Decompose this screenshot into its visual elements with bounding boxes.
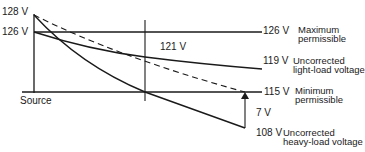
min-permissible-value: 115 V <box>264 86 289 97</box>
light-load-curve <box>34 32 262 69</box>
heavy-load-end-value: 108 V <box>256 127 282 138</box>
source-label: Source <box>20 95 52 106</box>
drop-value: 7 V <box>256 107 271 118</box>
light-load-label2: light-load voltage <box>293 65 365 75</box>
max-permissible-value: 126 V <box>263 25 289 36</box>
arrow-head-icon <box>241 92 249 99</box>
heavy-load-label2: heavy-load voltage <box>283 137 363 147</box>
label-126v: 126 V <box>2 26 28 37</box>
corrected-dashed-line <box>34 15 245 92</box>
light-load-end-value: 119 V <box>263 55 288 66</box>
light-load-mid-value: 121 V <box>160 41 186 52</box>
label-128v: 128 V <box>2 6 28 17</box>
max-permissible-label2: permissible <box>298 34 346 44</box>
min-permissible-label2: permissible <box>295 95 343 105</box>
